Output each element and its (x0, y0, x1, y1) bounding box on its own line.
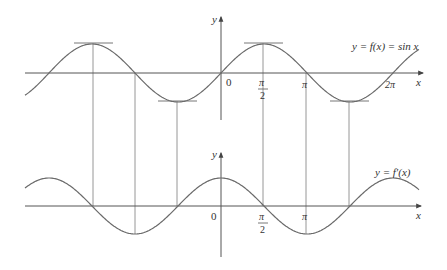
derivative-diagram: y x 0 π 2 π 2π y = f(x) = sin x y x 0 π … (0, 0, 447, 270)
top-curve-label: y = f(x) = sin x (351, 40, 419, 53)
top-tick-pi-over-2-den: 2 (260, 90, 265, 101)
bottom-tick-pi: π (302, 211, 308, 222)
bottom-y-axis-label: y (211, 148, 217, 160)
top-tick-pi: π (302, 79, 308, 90)
top-tick-pi-over-2-num: π (259, 77, 265, 88)
top-tick-2pi: 2π (385, 79, 396, 90)
top-x-axis-label: x (415, 76, 421, 88)
bottom-x-axis-label: x (415, 209, 421, 221)
bottom-curve-label: y = f′(x) (374, 166, 411, 179)
bottom-tick-pi-over-2-den: 2 (260, 224, 265, 235)
bottom-tick-pi-over-2-num: π (259, 211, 265, 222)
top-origin-label: 0 (226, 76, 232, 88)
top-y-axis-label: y (211, 13, 217, 25)
bottom-axes (25, 153, 421, 257)
top-axes (25, 17, 423, 120)
bottom-origin-label: 0 (211, 210, 217, 222)
